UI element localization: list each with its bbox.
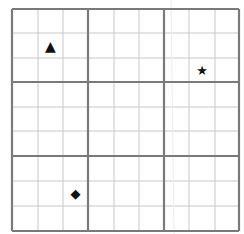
grid-cell-r2-c6[interactable] — [139, 33, 164, 58]
grid-cell-r3-c9[interactable] — [215, 58, 239, 82]
grid-cell-r7-c2[interactable] — [38, 156, 63, 181]
grid-cell-r9-c7[interactable] — [164, 206, 189, 231]
grid-cell-r3-c5[interactable] — [114, 58, 139, 82]
grid-cell-r6-c5[interactable] — [114, 131, 139, 156]
grid-cell-r8-c2[interactable] — [38, 181, 63, 206]
grid-cell-r7-c6[interactable] — [139, 156, 164, 181]
grid-cell-r7-c8[interactable] — [189, 156, 215, 181]
grid-cell-r4-c3[interactable] — [63, 82, 88, 107]
grid-cell-r8-c5[interactable] — [114, 181, 139, 206]
grid-cell-r1-c8[interactable] — [189, 9, 215, 33]
grid-cell-r5-c1[interactable] — [12, 107, 38, 131]
grid-cell-r9-c3[interactable] — [63, 206, 88, 231]
grid-cell-r1-c7[interactable] — [164, 9, 189, 33]
grid-cell-r8-c4[interactable] — [88, 181, 114, 206]
grid-cell-r4-c2[interactable] — [38, 82, 63, 107]
grid-cell-r6-c6[interactable] — [139, 131, 164, 156]
grid-cell-r8-c6[interactable] — [139, 181, 164, 206]
grid-cell-r2-c9[interactable] — [215, 33, 239, 58]
grid-cell-r9-c9[interactable] — [215, 206, 239, 231]
grid-cell-r1-c9[interactable] — [215, 9, 239, 33]
grid-cell-r6-c4[interactable] — [88, 131, 114, 156]
grid-cell-r1-c4[interactable] — [88, 9, 114, 33]
grid-cell-r4-c6[interactable] — [139, 82, 164, 107]
grid-cell-r8-c8[interactable] — [189, 181, 215, 206]
grid-cell-r2-c3[interactable] — [63, 33, 88, 58]
grid-cell-r3-c2[interactable] — [38, 58, 63, 82]
grid-cell-r2-c4[interactable] — [88, 33, 114, 58]
grid-cell-r9-c8[interactable] — [189, 206, 215, 231]
grid-cell-r4-c4[interactable] — [88, 82, 114, 107]
grid-cell-r1-c1[interactable] — [12, 9, 38, 33]
grid-cell-r8-c7[interactable] — [164, 181, 189, 206]
grid-board: ▲★◆ — [0, 0, 244, 234]
grid-cell-r3-c3[interactable] — [63, 58, 88, 82]
grid-cell-r4-c7[interactable] — [164, 82, 189, 107]
grid-cell-r4-c5[interactable] — [114, 82, 139, 107]
grid-cell-r3-c1[interactable] — [12, 58, 38, 82]
grid-cell-r5-c3[interactable] — [63, 107, 88, 131]
grid-cell-r2-c5[interactable] — [114, 33, 139, 58]
grid-cell-r8-c1[interactable] — [12, 181, 38, 206]
grid-cell-r6-c9[interactable] — [215, 131, 239, 156]
grid-cell-r5-c2[interactable] — [38, 107, 63, 131]
triangle-icon: ▲ — [45, 38, 56, 54]
grid-cell-r6-c1[interactable] — [12, 131, 38, 156]
diamond-icon: ◆ — [71, 186, 81, 201]
grid-cell-r5-c7[interactable] — [164, 107, 189, 131]
grid-cell-r6-c2[interactable] — [38, 131, 63, 156]
grid-cell-r7-c7[interactable] — [164, 156, 189, 181]
grid-cell-r1-c2[interactable] — [38, 9, 63, 33]
grid-cell-r1-c6[interactable] — [139, 9, 164, 33]
star-icon: ★ — [196, 63, 208, 78]
grid-cell-r4-c1[interactable] — [12, 82, 38, 107]
grid-cell-r2-c7[interactable] — [164, 33, 189, 58]
grid-cell-r5-c9[interactable] — [215, 107, 239, 131]
grid-cell-r5-c6[interactable] — [139, 107, 164, 131]
grid-cell-r7-c4[interactable] — [88, 156, 114, 181]
grid-cell-r4-c9[interactable] — [215, 82, 239, 107]
grid-cell-r1-c5[interactable] — [114, 9, 139, 33]
grid-cell-r7-c9[interactable] — [215, 156, 239, 181]
grid-cell-r5-c8[interactable] — [189, 107, 215, 131]
grid-cell-r5-c4[interactable] — [88, 107, 114, 131]
grid-cell-r1-c3[interactable] — [63, 9, 88, 33]
grid-cell-r4-c8[interactable] — [189, 82, 215, 107]
grid-cell-r7-c3[interactable] — [63, 156, 88, 181]
grid-cell-r6-c8[interactable] — [189, 131, 215, 156]
grid-cell-r5-c5[interactable] — [114, 107, 139, 131]
grid-cell-r3-c6[interactable] — [139, 58, 164, 82]
grid-cell-r3-c7[interactable] — [164, 58, 189, 82]
grid-cell-r6-c7[interactable] — [164, 131, 189, 156]
grid-cell-r9-c5[interactable] — [114, 206, 139, 231]
grid-cell-r6-c3[interactable] — [63, 131, 88, 156]
grid-cell-r9-c6[interactable] — [139, 206, 164, 231]
grid-cell-r7-c5[interactable] — [114, 156, 139, 181]
grid-cell-r2-c8[interactable] — [189, 33, 215, 58]
grid-cell-r9-c4[interactable] — [88, 206, 114, 231]
grid-cell-r7-c1[interactable] — [12, 156, 38, 181]
grid-cell-r9-c1[interactable] — [12, 206, 38, 231]
grid-cell-r8-c9[interactable] — [215, 181, 239, 206]
grid-cell-r2-c1[interactable] — [12, 33, 38, 58]
grid-cell-r9-c2[interactable] — [38, 206, 63, 231]
grid-cell-r3-c4[interactable] — [88, 58, 114, 82]
